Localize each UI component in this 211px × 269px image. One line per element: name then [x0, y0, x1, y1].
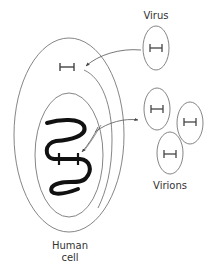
- virion-2: [177, 102, 203, 144]
- nucleus-membrane: [35, 93, 103, 217]
- virion-3-h-icon: [164, 150, 176, 158]
- infection-arrow: [86, 50, 141, 66]
- human-cell-label-line2: cell: [48, 252, 92, 264]
- virion-1-h-icon: [151, 105, 163, 113]
- replication-arrow: [95, 120, 138, 133]
- virus-label: Virus: [136, 10, 176, 22]
- viral-genome-h-icon: [60, 63, 74, 71]
- virion-2-h-icon: [184, 118, 196, 126]
- virus-genome-h-icon: [150, 44, 162, 52]
- virion-3: [157, 132, 183, 174]
- human-cell-label-line1: Human: [48, 240, 92, 252]
- virions-label: Virions: [148, 180, 192, 192]
- infection-diagram: [0, 0, 211, 269]
- integrated-viral-dna-icon: [59, 153, 78, 165]
- host-dna-strand: [47, 120, 90, 194]
